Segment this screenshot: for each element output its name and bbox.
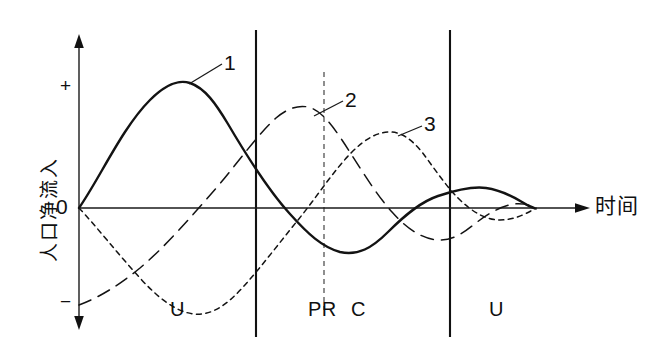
y-axis-arrow-up	[74, 34, 84, 48]
curve-series-3	[79, 132, 536, 314]
curve-series-1	[79, 82, 534, 253]
zone-label-u-second: U	[489, 299, 504, 319]
zone-label-pr: PR	[308, 299, 337, 319]
x-axis-title: 时间	[595, 195, 639, 216]
series-label-1: 1	[224, 52, 236, 73]
series-label-3: 3	[424, 113, 436, 134]
chart-figure: 1 2 3 + 0 − 人口净流入 时间 U PR C U	[0, 0, 650, 359]
y-axis-title: 人口净流入	[40, 157, 59, 262]
zone-label-c: C	[351, 299, 366, 319]
y-axis-arrow-down	[74, 316, 84, 330]
series-label-2: 2	[345, 89, 357, 110]
leader-line-series-2	[314, 101, 343, 116]
y-axis-plus-label: +	[60, 76, 71, 95]
zone-label-u-first: U	[170, 299, 185, 319]
leader-line-series-1	[189, 64, 222, 84]
y-axis-minus-label: −	[60, 292, 71, 311]
x-axis-arrow	[575, 203, 590, 213]
leader-line-series-3	[398, 126, 422, 136]
